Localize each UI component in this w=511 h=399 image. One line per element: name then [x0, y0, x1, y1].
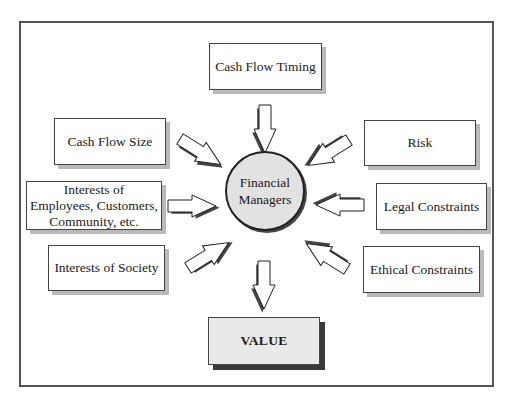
- value-box: VALUE: [208, 317, 320, 365]
- ethical-constraints-label: Ethical Constraints: [370, 262, 473, 278]
- cash-flow-size-box: Cash Flow Size: [54, 118, 166, 165]
- arrow-risk-to-center: [299, 129, 355, 176]
- financial-managers-line2: Managers: [238, 191, 291, 208]
- arrow-center-to-value: [251, 261, 275, 313]
- ethical-constraints-box: Ethical Constraints: [363, 246, 480, 293]
- interests-stakeholders-line2: Employees, Customers,: [30, 198, 158, 214]
- risk-box: Risk: [364, 120, 476, 166]
- interests-society-box: Interests of Society: [48, 245, 165, 291]
- arrow-ethical-to-center: [297, 231, 353, 278]
- interests-stakeholders-box: Interests of Employees, Customers, Commu…: [26, 181, 162, 230]
- financial-managers-line1: Financial: [238, 174, 291, 191]
- cash-flow-timing-label: Cash Flow Timing: [215, 59, 316, 75]
- arrow-legal-to-center: [313, 192, 365, 216]
- cash-flow-size-label: Cash Flow Size: [68, 134, 153, 150]
- value-label: VALUE: [240, 333, 287, 349]
- legal-constraints-box: Legal Constraints: [376, 183, 487, 230]
- interests-stakeholders-line1: Interests of: [64, 182, 124, 198]
- legal-constraints-label: Legal Constraints: [384, 199, 480, 215]
- arrow-society-to-center: [182, 231, 238, 278]
- arrow-timing-to-center: [252, 105, 276, 157]
- arrow-size-to-center: [173, 130, 229, 177]
- arrow-interests-to-center: [168, 195, 220, 219]
- financial-managers-node: Financial Managers: [225, 151, 305, 231]
- risk-label: Risk: [408, 135, 433, 151]
- interests-society-label: Interests of Society: [54, 260, 158, 276]
- interests-stakeholders-line3: Community, etc.: [49, 214, 139, 230]
- cash-flow-timing-box: Cash Flow Timing: [209, 43, 322, 90]
